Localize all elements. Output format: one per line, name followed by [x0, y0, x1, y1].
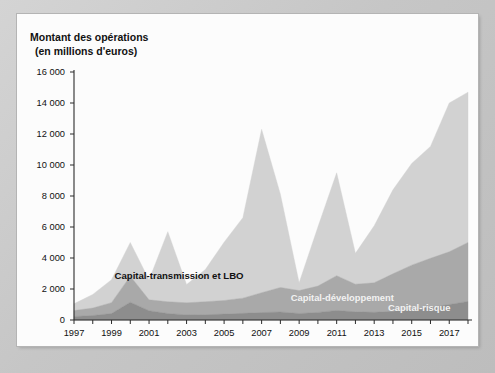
stacked-area-chart: Montant des opérations (en millions d'eu… — [17, 14, 478, 346]
x-tick-label: 2001 — [139, 328, 160, 338]
x-tick-label: 2011 — [327, 328, 347, 338]
x-tick-label: 2013 — [364, 328, 385, 338]
annotation-capital-transmission-et-lbo: Capital-transmission et LBO — [115, 270, 245, 281]
x-tick-label: 1999 — [101, 328, 122, 338]
annotation-capital-d-veloppement: Capital-développement — [291, 292, 394, 303]
chart-panel: Montant des opérations (en millions d'eu… — [17, 14, 478, 346]
y-axis-ticks: 02 0004 0006 0008 00010 00012 00014 0001… — [37, 67, 74, 325]
y-tick-label: 2 000 — [42, 284, 65, 294]
annotation-capital-risque: Capital-risque — [388, 302, 451, 313]
x-tick-label: 2009 — [289, 328, 310, 338]
y-tick-label: 6 000 — [42, 222, 65, 232]
area-series-group — [74, 92, 468, 320]
x-axis-ticks: 1997199920012003200520072009201120132015… — [64, 320, 468, 338]
y-tick-label: 16 000 — [37, 67, 65, 77]
x-tick-label: 2017 — [439, 328, 460, 338]
chart-plot-area: Montant des opérations (en millions d'eu… — [17, 14, 478, 346]
y-tick-label: 0 — [60, 315, 65, 325]
chart-title: Montant des opérations — [30, 31, 149, 43]
x-tick-label: 2015 — [401, 328, 422, 338]
x-tick-label: 2007 — [251, 328, 272, 338]
y-tick-label: 10 000 — [37, 160, 65, 170]
y-tick-label: 14 000 — [37, 98, 65, 108]
x-tick-label: 1997 — [64, 328, 85, 338]
y-tick-label: 4 000 — [42, 253, 65, 263]
x-tick-label: 2005 — [214, 328, 235, 338]
outer-frame: Montant des opérations (en millions d'eu… — [0, 0, 495, 373]
y-tick-label: 8 000 — [42, 191, 65, 201]
x-tick-label: 2003 — [176, 328, 197, 338]
chart-subtitle: (en millions d'euros) — [35, 45, 137, 57]
y-tick-label: 12 000 — [37, 129, 65, 139]
